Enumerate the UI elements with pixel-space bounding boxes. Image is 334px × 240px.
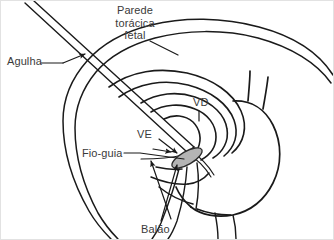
chest-wall-leader — [150, 41, 178, 55]
label-chest-wall-line1: Parede — [104, 4, 166, 17]
diagram-canvas — [1, 1, 334, 240]
label-left-ventricle: VE — [137, 128, 152, 141]
fetal-cardiac-intervention-diagram: Parede torácica fetal Agulha VD VE Fio-g… — [0, 0, 334, 240]
label-guidewire: Fio-guia — [82, 147, 123, 160]
label-needle: Agulha — [7, 55, 42, 68]
balloon-tip-arrow — [153, 149, 171, 152]
agulha-leader — [41, 54, 85, 63]
label-right-ventricle: VD — [193, 96, 208, 109]
fio-guia-leader — [124, 153, 184, 159]
label-chest-wall-line2: torácica — [104, 17, 166, 30]
ventricular-chambers — [109, 70, 244, 163]
label-chest-wall: Parede torácica fetal — [104, 4, 166, 42]
label-chest-wall-line3: fetal — [104, 29, 166, 42]
label-balloon: Balão — [141, 223, 170, 236]
